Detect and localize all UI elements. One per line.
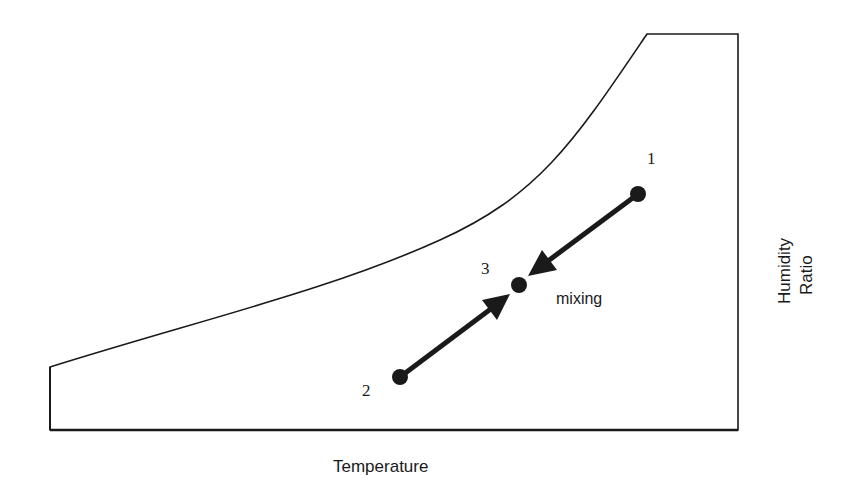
point-label-3: 3 (481, 259, 490, 278)
arrow-2-to-3-head-icon (482, 294, 510, 320)
chart-outline (50, 34, 738, 430)
state-point-1 (630, 186, 646, 202)
arrow-2-to-3-shaft (404, 308, 492, 374)
point-label-2: 2 (362, 381, 371, 400)
point-label-1: 1 (647, 149, 656, 168)
arrow-1-to-3-shaft (548, 197, 634, 261)
state-point-3 (511, 277, 527, 293)
y-axis-label-line1: Humidity (775, 237, 794, 304)
x-axis-label: Temperature (333, 457, 428, 476)
arrow-1-to-3-head-icon (528, 250, 557, 276)
process-label-mixing: mixing (556, 290, 602, 307)
psychrometric-diagram: 1 3 2 mixing Temperature Humidity Ratio (0, 0, 855, 491)
y-axis-label-line2: Ratio (797, 255, 816, 295)
state-point-2 (392, 369, 408, 385)
